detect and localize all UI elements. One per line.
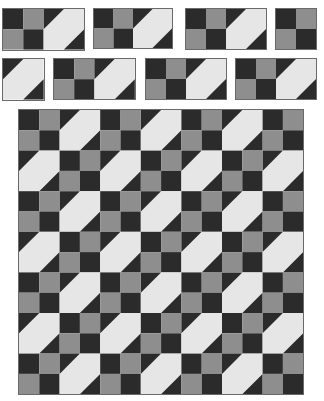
unit-top-4 (276, 9, 316, 49)
unit-bottom-1 (3, 59, 44, 100)
unit-top-1 (3, 9, 84, 50)
quilt-assembly (19, 110, 303, 394)
unit-top-3 (186, 9, 266, 49)
unit-bottom-3 (146, 59, 226, 99)
unit-top-2 (94, 9, 172, 48)
unit-bottom-4 (236, 59, 316, 99)
unit-bottom-2 (54, 59, 135, 99)
